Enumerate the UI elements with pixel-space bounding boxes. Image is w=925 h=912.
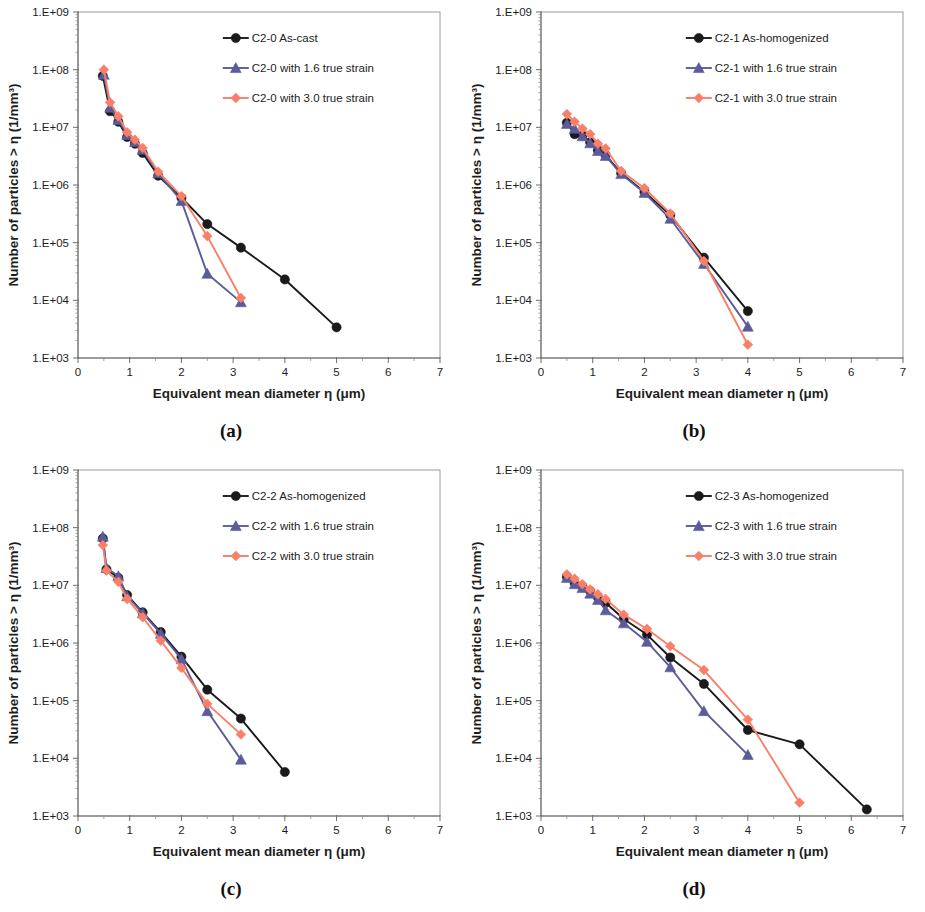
y-tick-label: 1.E+06	[495, 179, 532, 191]
x-tick-label: 7	[900, 824, 906, 836]
data-point	[743, 340, 753, 350]
data-point	[666, 653, 675, 662]
x-tick-label: 3	[230, 824, 236, 836]
legend-label: C2-1 with 1.6 true strain	[715, 62, 837, 74]
legend-label: C2-0 with 3.0 true strain	[252, 92, 374, 104]
x-tick-label: 7	[437, 824, 443, 836]
y-axis-title: Number of particles > η (1/mm³)	[469, 542, 484, 745]
y-tick-label: 1.E+04	[32, 294, 69, 306]
legend: C2-2 As-homogenizedC2-2 with 1.6 true st…	[223, 490, 374, 562]
x-tick-label: 6	[385, 366, 391, 378]
y-tick-label: 1.E+06	[32, 637, 69, 649]
y-tick-label: 1.E+08	[32, 522, 69, 534]
y-tick-label: 1.E+05	[495, 695, 532, 707]
series-3	[562, 569, 805, 807]
x-tick-label: 5	[796, 824, 802, 836]
series-3	[99, 65, 246, 303]
x-axis-title: Equivalent mean diameter η (μm)	[616, 386, 828, 401]
y-tick-label: 1.E+03	[32, 352, 69, 364]
legend-label: C2-2 with 1.6 true strain	[252, 520, 374, 532]
x-tick-label: 4	[745, 366, 752, 378]
plot-area-b: 1.E+031.E+041.E+051.E+061.E+071.E+081.E+…	[463, 0, 925, 410]
x-axis-title: Equivalent mean diameter η (μm)	[616, 844, 828, 859]
legend: C2-0 As-castC2-0 with 1.6 true strainC2-…	[223, 32, 374, 104]
series-2	[561, 572, 753, 759]
x-tick-label: 2	[178, 824, 184, 836]
data-point	[862, 805, 871, 814]
y-tick-label: 1.E+06	[495, 637, 532, 649]
y-tick-label: 1.E+09	[495, 6, 532, 18]
chart-panel-b: 1.E+031.E+041.E+051.E+061.E+071.E+081.E+…	[463, 0, 925, 456]
legend-marker	[694, 93, 704, 103]
series-1	[98, 534, 289, 777]
data-point	[699, 679, 708, 688]
data-point	[236, 243, 245, 252]
y-axis: 1.E+031.E+041.E+051.E+061.E+071.E+081.E+…	[32, 464, 79, 822]
x-axis: 01234567	[538, 815, 906, 836]
legend-label: C2-1 with 3.0 true strain	[715, 92, 837, 104]
x-tick-label: 0	[538, 366, 544, 378]
x-tick-label: 5	[796, 366, 802, 378]
x-axis-title: Equivalent mean diameter η (μm)	[153, 386, 365, 401]
legend-marker	[231, 491, 240, 500]
data-point	[795, 798, 805, 808]
x-tick-label: 5	[333, 824, 339, 836]
y-tick-label: 1.E+05	[495, 237, 532, 249]
legend-label: C2-0 As-cast	[252, 32, 319, 44]
x-tick-label: 3	[693, 366, 699, 378]
y-axis-title: Number of particles > η (1/mm³)	[6, 84, 21, 287]
legend-marker	[694, 551, 704, 561]
data-point	[332, 323, 341, 332]
y-tick-label: 1.E+07	[495, 121, 532, 133]
y-tick-label: 1.E+09	[495, 464, 532, 476]
x-tick-label: 1	[127, 824, 133, 836]
y-tick-label: 1.E+04	[495, 294, 532, 306]
data-point	[743, 307, 752, 316]
series-2	[97, 531, 246, 764]
x-axis: 01234567	[75, 357, 443, 378]
x-tick-label: 1	[590, 824, 596, 836]
legend-label: C2-2 As-homogenized	[252, 490, 366, 502]
series-1	[562, 572, 871, 814]
chart-panel-d: 1.E+031.E+041.E+051.E+061.E+071.E+081.E+…	[463, 458, 925, 912]
x-tick-label: 0	[538, 824, 544, 836]
legend-label: C2-3 As-homogenized	[715, 490, 829, 502]
data-point	[203, 219, 212, 228]
x-tick-label: 7	[900, 366, 906, 378]
x-tick-label: 6	[385, 824, 391, 836]
y-tick-label: 1.E+07	[32, 121, 69, 133]
x-tick-label: 1	[127, 366, 133, 378]
x-tick-label: 5	[333, 366, 339, 378]
data-point	[280, 767, 289, 776]
panel-caption-a: (a)	[0, 420, 462, 442]
legend-marker	[694, 491, 703, 500]
x-tick-label: 1	[590, 366, 596, 378]
data-point	[236, 293, 246, 303]
x-axis: 01234567	[538, 357, 906, 378]
plot-area-a: 1.E+031.E+041.E+051.E+061.E+071.E+081.E+…	[0, 0, 462, 410]
panel-caption-c: (c)	[0, 878, 462, 900]
y-tick-label: 1.E+07	[495, 579, 532, 591]
y-tick-label: 1.E+08	[495, 522, 532, 534]
x-tick-label: 4	[282, 366, 289, 378]
x-tick-label: 0	[75, 366, 81, 378]
x-tick-label: 6	[848, 824, 854, 836]
legend-marker	[231, 93, 241, 103]
series-3	[98, 540, 246, 739]
y-axis: 1.E+031.E+041.E+051.E+061.E+071.E+081.E+…	[495, 6, 542, 364]
y-axis: 1.E+031.E+041.E+051.E+061.E+071.E+081.E+…	[495, 464, 542, 822]
legend-marker	[231, 551, 241, 561]
data-point	[202, 268, 213, 278]
y-axis-title: Number of particles > η (1/mm³)	[6, 542, 21, 745]
legend-label: C2-2 with 3.0 true strain	[252, 550, 374, 562]
x-tick-label: 0	[75, 824, 81, 836]
x-tick-label: 4	[745, 824, 752, 836]
legend-label: C2-3 with 3.0 true strain	[715, 550, 837, 562]
x-axis: 01234567	[75, 815, 443, 836]
data-point	[795, 740, 804, 749]
legend-label: C2-3 with 1.6 true strain	[715, 520, 837, 532]
x-axis-title: Equivalent mean diameter η (μm)	[153, 844, 365, 859]
y-tick-label: 1.E+08	[495, 64, 532, 76]
x-tick-label: 2	[641, 824, 647, 836]
legend-label: C2-0 with 1.6 true strain	[252, 62, 374, 74]
